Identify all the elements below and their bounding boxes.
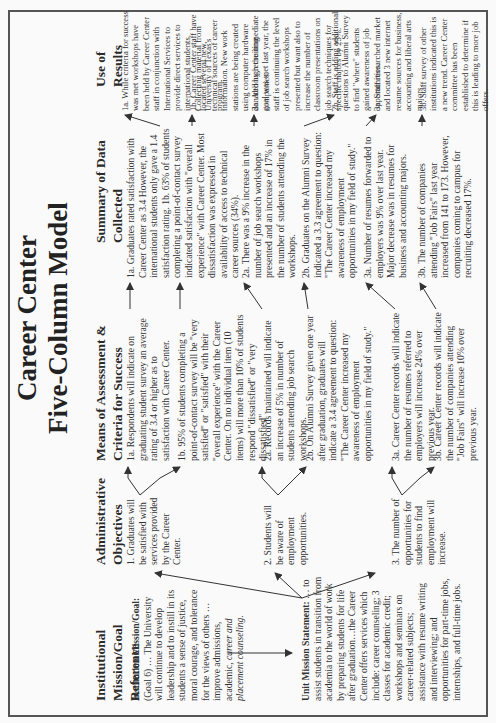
unit-mission-text: … to assist students in transition from … <box>300 577 462 701</box>
rotated-document-page: Career Center Five-Column Model Institut… <box>0 0 496 723</box>
means-1a: 1a. Respondents will indicate on graduat… <box>125 311 171 461</box>
summary-3b: 3b. The number of companies attending "J… <box>416 128 474 278</box>
means-2b: 2b. On Alumni Survey given one year afte… <box>304 311 374 461</box>
summary-1: 1a. Graduates rated satisfaction with Ca… <box>125 128 241 278</box>
means-3b: 3b. Career Center records will indicate … <box>432 311 478 461</box>
use-3a: 3a. Staff researched market and located … <box>372 11 424 111</box>
summary-3a: 3a. Number of resumes forwarded to emplo… <box>362 128 408 278</box>
unit-mission-label: Unit Mission Statement: <box>300 601 311 701</box>
title-line-1: Career Center <box>12 158 43 478</box>
use-3b: 3b. Staff survey of other institutions i… <box>418 11 491 111</box>
institution-mission-goal: Institution Mission/Goal: (Goal 6) … The… <box>130 583 246 701</box>
summary-2a: 2a. There was a 9% increase in the numbe… <box>240 128 298 278</box>
summary-2b: 2b. Graduates on the Alumni Survey indic… <box>300 128 358 278</box>
institution-mission-label: Institution Mission/Goal: <box>130 598 141 701</box>
objective-3: 3. The number of opportunities for stude… <box>390 495 448 565</box>
objective-2: 2. Students will be aware of employment … <box>262 495 308 565</box>
document-title: Career Center Five-Column Model <box>12 158 74 478</box>
header-summary: Summary of Data Collected <box>92 113 126 243</box>
header-objectives: Administrative Objectives <box>92 475 126 565</box>
means-3a: 3a. Career Center records will indicate … <box>390 311 436 461</box>
institution-mission-text: (Goal 6) … The University will continue … <box>142 590 234 701</box>
means-2a: 2a. Records maintained will indicate an … <box>262 311 308 461</box>
means-1b: 1b. 95% of students completing a point-o… <box>176 311 269 461</box>
unit-mission-statement: Unit Mission Statement: … to assist stud… <box>300 573 462 701</box>
header-means: Means of Assessment & Criteria for Succe… <box>92 301 126 461</box>
title-line-2: Five-Column Model <box>43 158 74 478</box>
objective-1: 1. Graduates will be satisfied with serv… <box>125 495 183 565</box>
